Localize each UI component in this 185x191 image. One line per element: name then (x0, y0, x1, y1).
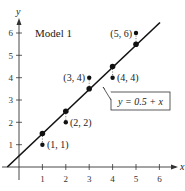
chart-title: Model 1 (35, 27, 72, 39)
equation-callout: y = 0.5 + x (103, 87, 170, 110)
svg-text:2: 2 (64, 174, 69, 184)
x-axis-arrow-icon (171, 165, 178, 170)
svg-text:5: 5 (9, 51, 14, 61)
svg-text:6: 6 (157, 174, 162, 184)
equation-label: y = 0.5 + x (117, 96, 163, 107)
svg-text:4: 4 (110, 174, 115, 184)
point-label-1-1: (1, 1) (47, 139, 69, 151)
point-label-3-4: (3, 4) (63, 72, 85, 84)
x-tick-labels: 1 2 3 4 5 6 (40, 174, 162, 184)
svg-text:2: 2 (9, 118, 14, 128)
svg-text:1: 1 (40, 174, 45, 184)
x-axis-label: x (179, 161, 185, 172)
svg-text:1: 1 (9, 140, 14, 150)
point-label-5-6: (5, 6) (110, 28, 132, 40)
point-label-2-2: (2, 2) (70, 117, 92, 129)
point-labels: (1, 1) (2, 2) (3, 4) (4, 4) (5, 6) (47, 28, 139, 152)
svg-text:5: 5 (134, 174, 139, 184)
y-axis-label: y (15, 6, 21, 17)
svg-text:4: 4 (9, 73, 14, 83)
svg-text:3: 3 (9, 95, 14, 105)
svg-text:3: 3 (87, 174, 92, 184)
y-tick-labels: 1 2 3 4 5 6 (9, 28, 14, 150)
y-axis-arrow-icon (17, 18, 22, 25)
svg-text:6: 6 (9, 28, 14, 38)
point-label-4-4: (4, 4) (117, 72, 139, 84)
chart-canvas: x y 1 2 3 4 5 6 1 2 3 4 5 6 (0, 0, 185, 191)
